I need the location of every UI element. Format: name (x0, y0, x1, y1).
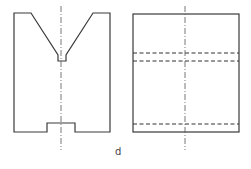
side-view (133, 6, 239, 150)
front-view-outline (14, 13, 110, 132)
front-view (14, 6, 110, 150)
figure-label: d (115, 146, 121, 157)
side-view-outline (133, 14, 239, 132)
drawing-canvas (0, 0, 251, 169)
